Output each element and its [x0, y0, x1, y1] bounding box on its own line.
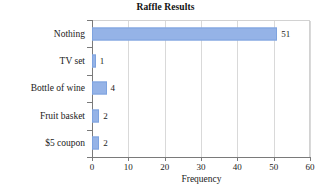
bar-row: 51	[92, 20, 310, 47]
x-axis-tick	[274, 157, 275, 161]
bar-value-label: 2	[103, 139, 108, 148]
gridline	[310, 21, 311, 157]
x-axis-title: Frequency	[92, 174, 311, 184]
x-axis-tick-label: 0	[90, 162, 95, 172]
bar-row: 2	[92, 130, 310, 157]
x-axis-tick-label: 50	[269, 162, 278, 172]
bar[interactable]	[92, 55, 96, 68]
category-label: $5 coupon	[45, 130, 85, 157]
x-axis-tick-label: 20	[160, 162, 169, 172]
bar[interactable]	[92, 27, 277, 40]
category-label: Bottle of wine	[31, 75, 85, 102]
category-axis-labels: NothingTV setBottle of wineFruit basket$…	[0, 20, 90, 157]
x-axis-tick	[92, 157, 93, 161]
bar-row: 2	[92, 102, 310, 129]
x-axis-tick	[237, 157, 238, 161]
category-label: TV set	[60, 47, 85, 74]
bar-value-label: 2	[103, 111, 108, 120]
x-axis-tick-label: 10	[124, 162, 133, 172]
x-axis-tick	[128, 157, 129, 161]
bar[interactable]	[92, 137, 99, 150]
bar-row: 1	[92, 47, 310, 74]
chart-title: Raffle Results	[0, 2, 331, 12]
x-axis-tick-label: 30	[197, 162, 206, 172]
bar[interactable]	[92, 109, 99, 122]
bar-value-label: 51	[281, 29, 290, 38]
x-axis-tick-label: 60	[306, 162, 315, 172]
x-axis-tick	[201, 157, 202, 161]
bar[interactable]	[92, 82, 107, 95]
category-label: Nothing	[54, 20, 85, 47]
x-axis-tick	[165, 157, 166, 161]
category-label: Fruit basket	[40, 102, 85, 129]
bar-value-label: 4	[111, 84, 116, 93]
bar-value-label: 1	[100, 57, 105, 66]
raffle-results-chart: Raffle Results NothingTV setBottle of wi…	[0, 0, 331, 190]
bars-layer: 511422	[92, 20, 310, 157]
x-axis-tick	[310, 157, 311, 161]
x-axis-tick-label: 40	[233, 162, 242, 172]
bar-row: 4	[92, 75, 310, 102]
